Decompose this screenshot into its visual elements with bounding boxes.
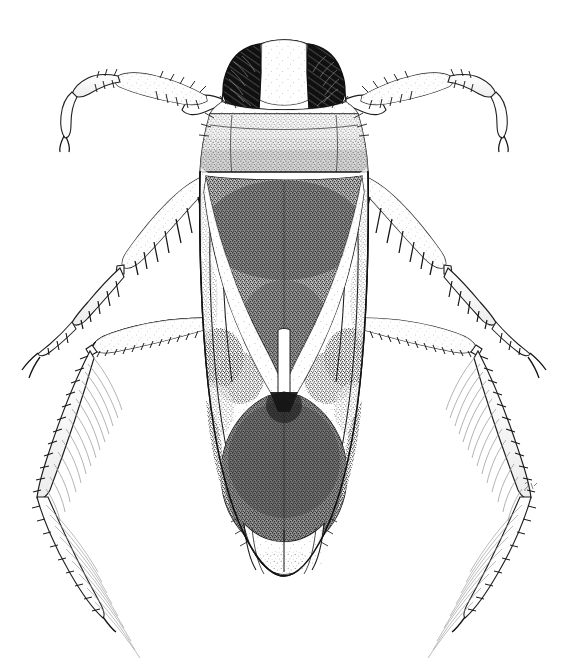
claval-commissure — [278, 329, 290, 399]
insect-drawing — [0, 0, 563, 658]
illustration-plate — [0, 0, 563, 658]
pronotum — [195, 98, 373, 182]
